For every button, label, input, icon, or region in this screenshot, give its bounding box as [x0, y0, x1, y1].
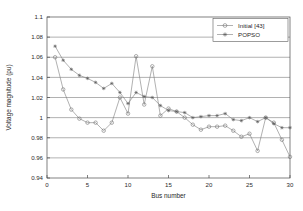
data-point-marker: [183, 111, 187, 115]
data-point-marker: [94, 81, 98, 85]
data-point-marker: [232, 118, 236, 122]
y-tick-label: 0.94: [31, 174, 43, 181]
data-point-marker: [134, 91, 138, 95]
voltage-magnitude-line-chart: 0.940.960.9811.021.041.061.081.1 0510152…: [0, 0, 303, 211]
series-initial-43: [53, 54, 291, 158]
data-point-marker: [207, 114, 211, 118]
y-tick-label: 1.08: [31, 33, 43, 40]
data-point-marker: [126, 102, 130, 106]
y-tick-label: 1.1: [35, 13, 44, 20]
x-tick-label: 5: [86, 181, 90, 188]
y-tick-label: 1.06: [31, 53, 43, 60]
x-axis-title: Bus number: [151, 192, 186, 199]
series-polyline: [55, 56, 290, 157]
data-point-marker: [142, 95, 146, 99]
data-point-marker: [256, 120, 260, 124]
data-point-marker: [151, 96, 155, 100]
x-tick-label: 30: [287, 181, 294, 188]
chart-figure: 0.940.960.9811.021.041.061.081.1 0510152…: [0, 0, 303, 211]
legend-label-initial: Initial [43]: [238, 22, 265, 29]
y-tick-label: 1.04: [31, 74, 43, 81]
data-point-marker: [53, 44, 57, 48]
x-tick-label: 25: [246, 181, 253, 188]
series-polyline: [55, 46, 290, 128]
legend-label-popso: POPSO: [238, 31, 260, 38]
x-tick-label: 15: [165, 181, 172, 188]
data-point-marker: [61, 59, 64, 63]
y-tick-label: 1.02: [31, 94, 43, 101]
data-point-marker: [159, 104, 163, 108]
x-tick-label: 10: [125, 181, 132, 188]
x-tick-label: 20: [206, 181, 213, 188]
data-point-marker: [191, 116, 195, 120]
x-tick-label: 0: [45, 181, 49, 188]
data-point-marker: [248, 116, 252, 120]
legend-marker-star-icon: [223, 32, 227, 36]
y-tick-label: 0.98: [31, 134, 43, 141]
chart-legend: Initial [43] POPSO: [213, 19, 288, 42]
data-point-marker: [110, 82, 114, 86]
data-point-marker: [264, 116, 268, 120]
x-axis-ticks-group: 051015202530: [45, 175, 294, 188]
y-axis-title: Voltage magnitude (pu): [5, 64, 13, 130]
y-tick-label: 0.96: [31, 154, 43, 161]
data-point-marker: [102, 87, 106, 91]
data-point-marker: [280, 126, 284, 130]
data-point-marker: [272, 122, 276, 126]
data-point-marker: [215, 114, 219, 118]
data-point-marker: [199, 115, 203, 119]
data-point-marker: [167, 109, 171, 113]
data-point-marker: [240, 119, 244, 123]
data-point-marker: [86, 77, 90, 81]
data-point-marker: [78, 74, 82, 78]
data-point-marker: [223, 112, 227, 116]
gridlines-group: [47, 37, 290, 158]
data-point-marker: [175, 110, 179, 114]
data-point-marker: [70, 68, 74, 72]
data-point-marker: [288, 126, 292, 130]
y-tick-label: 1: [40, 114, 44, 121]
data-point-marker: [118, 91, 122, 95]
